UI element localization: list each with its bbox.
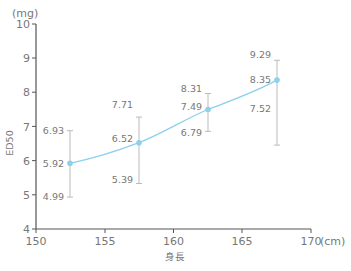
svg-text:7: 7 [23,121,30,134]
svg-text:6: 6 [23,155,30,168]
x-ticks [36,229,311,233]
svg-text:8: 8 [23,86,30,99]
svg-text:4.99: 4.99 [43,191,64,202]
value-labels: 6.93 5.92 4.99 7.71 6.52 5.39 8.31 7.49 … [43,49,271,202]
svg-text:9: 9 [23,52,30,65]
svg-text:155: 155 [95,235,116,248]
svg-text:7.49: 7.49 [181,101,202,112]
svg-text:8.35: 8.35 [250,74,271,85]
svg-text:7.52: 7.52 [250,103,271,114]
svg-text:5.92: 5.92 [43,158,64,169]
svg-text:5.39: 5.39 [112,174,133,185]
svg-text:5: 5 [23,189,30,202]
svg-text:8.31: 8.31 [181,83,202,94]
svg-text:170: 170 [301,235,322,248]
error-bars [67,60,280,197]
data-points [67,77,280,166]
x-axis-label: 身長 [165,251,185,262]
y-unit: (mg) [12,7,38,20]
svg-text:6.79: 6.79 [181,127,202,138]
svg-text:160: 160 [163,235,184,248]
svg-text:7.71: 7.71 [112,99,133,110]
svg-text:9.29: 9.29 [250,49,271,60]
svg-text:165: 165 [232,235,253,248]
y-tick-labels: 4 5 6 7 8 9 10 [16,18,30,236]
x-unit: (cm) [320,235,345,248]
svg-text:150: 150 [26,235,47,248]
x-tick-labels: 150 155 160 165 170 [26,235,322,248]
ed50-chart: 4 5 6 7 8 9 10 (mg) ED50 150 155 160 165… [0,0,351,271]
svg-text:6.93: 6.93 [43,125,64,136]
svg-text:6.52: 6.52 [112,133,133,144]
y-axis-label: ED50 [4,130,15,155]
ed50-line [70,80,277,163]
